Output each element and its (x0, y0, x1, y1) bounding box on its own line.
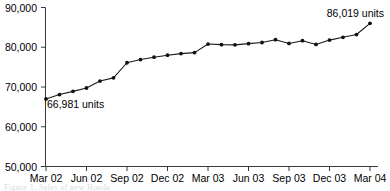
data-point (301, 39, 305, 43)
data-point (206, 42, 210, 46)
annotation-last-value: 86,019 units (327, 7, 384, 19)
data-point (166, 53, 170, 57)
data-point (98, 79, 102, 83)
y-axis-label-70000: 70,000 (5, 81, 37, 93)
data-point (85, 86, 89, 90)
data-point (58, 93, 62, 97)
y-axis-label-90000: 90,000 (5, 2, 37, 14)
y-axis-label-60000: 60,000 (5, 121, 37, 133)
data-point (112, 76, 116, 80)
data-point (125, 61, 129, 65)
annotation-first-value: 66,981 units (47, 98, 104, 110)
chart-canvas: 90,000 80,000 70,000 60,000 50,000 Mar 0… (0, 0, 390, 191)
data-point (355, 33, 359, 37)
data-point (341, 35, 345, 39)
data-point (260, 41, 264, 45)
x-axis-label-dec-03: Dec 03 (313, 172, 346, 184)
figure-caption: Figure 1. Sales of new Honda (4, 183, 110, 191)
data-point (247, 42, 251, 46)
x-axis-group: Mar 02 Jun 02 Sep 02 Dec 02 Mar 03 Jun 0… (30, 167, 387, 185)
x-axis-label-mar-03: Mar 03 (192, 172, 225, 184)
y-axis-label-80000: 80,000 (5, 41, 37, 53)
data-point (193, 51, 197, 55)
data-point (233, 43, 237, 47)
y-axis-label-50000: 50,000 (5, 161, 37, 173)
x-axis-label-dec-02: Dec 02 (151, 172, 184, 184)
data-point (274, 38, 278, 42)
data-series-units (44, 21, 372, 100)
data-point (220, 43, 224, 47)
data-point (314, 43, 318, 47)
data-point (287, 42, 291, 46)
x-axis-label-sep-03: Sep 03 (272, 172, 305, 184)
series-markers-units (44, 21, 372, 100)
data-point (368, 21, 372, 25)
data-point (328, 38, 332, 42)
data-point (71, 89, 75, 93)
annotation-group: 66,981 units 86,019 units (47, 7, 384, 110)
x-axis-label-mar-04: Mar 04 (354, 172, 387, 184)
x-axis-label-jun-03: Jun 03 (233, 172, 265, 184)
x-axis-label-sep-02: Sep 02 (110, 172, 143, 184)
data-point (179, 52, 183, 56)
series-line-units (46, 23, 370, 99)
data-point (152, 55, 156, 59)
y-axis-group: 90,000 80,000 70,000 60,000 50,000 (5, 2, 46, 173)
line-chart-figure: 90,000 80,000 70,000 60,000 50,000 Mar 0… (0, 0, 390, 191)
data-point (139, 58, 143, 62)
